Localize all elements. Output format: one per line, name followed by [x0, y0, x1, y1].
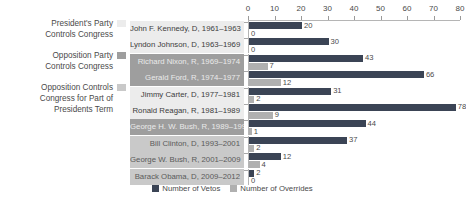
bar-vetos[interactable] [249, 120, 366, 127]
chart-row: Barack Obama, D, 2009–201220 [130, 169, 465, 185]
bar-value-label: 2 [256, 168, 260, 178]
bar-overrides[interactable] [249, 63, 268, 70]
chart-row: Richard Nixon, R, 1969–1974437 [130, 54, 465, 70]
x-axis-tick-label: 50 [376, 4, 385, 13]
bar-vetos[interactable] [249, 22, 302, 29]
bar-vetos[interactable] [249, 88, 331, 95]
bar-overrides[interactable] [249, 112, 273, 119]
bar-group-overrides: 2 [249, 96, 461, 103]
bar-group-overrides: 4 [249, 161, 461, 168]
swatch-opposition-party-icon [117, 52, 126, 59]
swatch-vetos-icon [152, 185, 159, 192]
row-bars: 437 [249, 54, 461, 70]
bar-value-label: 31 [333, 86, 341, 96]
row-label-president: Richard Nixon, R, 1969–1974 [130, 54, 244, 70]
row-bars: 124 [249, 152, 461, 168]
swatch-own-party-icon [117, 20, 126, 27]
series-legend: Number of Vetos Number of Overrides [0, 184, 465, 193]
chart-row: George H. W. Bush, R, 1989–1993441 [130, 119, 465, 135]
legend-label-opposition-party: Opposition Party Controls Congress [45, 50, 113, 72]
bar-group-overrides: 12 [249, 79, 461, 86]
bar-overrides[interactable] [249, 79, 281, 86]
row-label-president: Ronald Reagan, R, 1981–1989 [130, 103, 244, 119]
swatch-partial-opposition-icon [117, 84, 126, 91]
row-label-president: Barack Obama, D, 2009–2012 [130, 169, 244, 185]
bar-group-vetos: 12 [249, 153, 461, 160]
bar-group-vetos: 20 [249, 22, 461, 29]
x-axis-tick-label: 20 [297, 4, 306, 13]
bar-group-overrides: 2 [249, 145, 461, 152]
bar-value-label: 44 [368, 119, 376, 129]
row-bars: 20 [249, 169, 461, 185]
legend-item-own-party: President's Party Controls Congress [0, 18, 126, 40]
row-label-president: Jimmy Carter, D, 1977–1981 [130, 87, 244, 103]
bar-value-label: 37 [349, 135, 357, 145]
x-axis-tick-label: 40 [350, 4, 359, 13]
legend-label-partial-opposition: Opposition Controls Congress for Part of… [40, 82, 113, 115]
chart-row: Lyndon Johnson, D, 1963–1969300 [130, 37, 465, 53]
row-label-president: John F. Kennedy, D, 1961–1963 [130, 21, 244, 37]
bar-value-label: 12 [283, 152, 291, 162]
row-bars: 372 [249, 136, 461, 152]
legend-label-vetos: Number of Vetos [162, 184, 220, 193]
bar-rows: John F. Kennedy, D, 1961–1963200Lyndon J… [130, 21, 465, 185]
row-bars: 789 [249, 103, 461, 119]
swatch-overrides-icon [230, 185, 237, 192]
row-label-president: Lyndon Johnson, D, 1963–1969 [130, 37, 244, 53]
bar-group-vetos: 78 [249, 104, 461, 111]
x-axis-tick-label: 80 [456, 4, 465, 13]
bar-value-label: 78 [458, 102, 466, 112]
row-bars: 200 [249, 21, 461, 37]
bar-vetos[interactable] [249, 38, 329, 45]
legend-item-opposition-party: Opposition Party Controls Congress [0, 50, 126, 72]
legend-item-overrides: Number of Overrides [230, 184, 312, 193]
row-label-president: George W. Bush, R, 2001–2009 [130, 152, 244, 168]
x-axis-tick-label: 70 [429, 4, 438, 13]
bar-group-vetos: 43 [249, 55, 461, 62]
chart-row: Ronald Reagan, R, 1981–1989789 [130, 103, 465, 119]
bar-value-label: 43 [365, 53, 373, 63]
bar-value-label: 20 [304, 21, 312, 31]
bar-vetos[interactable] [249, 137, 347, 144]
row-label-president: George H. W. Bush, R, 1989–1993 [130, 119, 244, 135]
bar-group-vetos: 2 [249, 170, 461, 177]
chart-row: John F. Kennedy, D, 1961–1963200 [130, 21, 465, 37]
bar-group-overrides: 0 [249, 46, 461, 53]
row-bars: 441 [249, 119, 461, 135]
x-axis-tick-label: 30 [323, 4, 332, 13]
bar-overrides[interactable] [249, 128, 252, 135]
congress-control-legend: President's Party Controls Congress Oppo… [0, 18, 126, 125]
legend-item-partial-opposition: Opposition Controls Congress for Part of… [0, 82, 126, 115]
bar-group-overrides: 0 [249, 30, 461, 37]
x-axis-tick-label: 60 [403, 4, 412, 13]
bar-vetos[interactable] [249, 71, 424, 78]
x-axis-tick-mark [460, 16, 461, 20]
bar-group-vetos: 66 [249, 71, 461, 78]
bar-value-label: 66 [426, 70, 434, 80]
chart-row: George W. Bush, R, 2001–2009124 [130, 152, 465, 168]
chart-row: Jimmy Carter, D, 1977–1981312 [130, 87, 465, 103]
x-axis-tick-label: 0 [246, 4, 250, 13]
row-bars: 6612 [249, 70, 461, 86]
bar-group-vetos: 31 [249, 88, 461, 95]
row-label-president: Gerald Ford, R, 1974–1977 [130, 70, 244, 86]
row-bars: 312 [249, 87, 461, 103]
bar-group-overrides: 9 [249, 112, 461, 119]
bar-overrides[interactable] [249, 96, 254, 103]
row-bars: 300 [249, 37, 461, 53]
bar-group-vetos: 37 [249, 137, 461, 144]
plot-area: 01020304050607080 John F. Kennedy, D, 19… [130, 4, 465, 184]
legend-label-own-party: President's Party Controls Congress [45, 18, 113, 40]
bar-overrides[interactable] [249, 145, 254, 152]
bar-value-label: 30 [331, 37, 339, 47]
x-axis-tick-label: 10 [270, 4, 279, 13]
chart-row: Gerald Ford, R, 1974–19776612 [130, 70, 465, 86]
bar-vetos[interactable] [249, 104, 456, 111]
bar-group-vetos: 30 [249, 38, 461, 45]
bar-vetos[interactable] [249, 55, 363, 62]
row-label-president: Bill Clinton, D, 1993–2001 [130, 136, 244, 152]
chart-row: Bill Clinton, D, 1993–2001372 [130, 136, 465, 152]
legend-item-vetos: Number of Vetos [152, 184, 220, 193]
legend-label-overrides: Number of Overrides [240, 184, 312, 193]
